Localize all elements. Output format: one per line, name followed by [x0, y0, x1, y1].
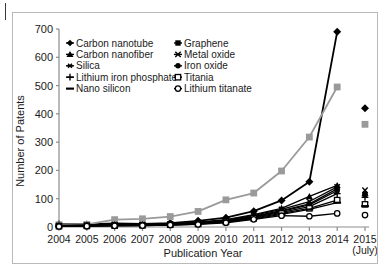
chart-frame: 0100200300400500600700 20042005200620072…	[12, 12, 378, 264]
diamond-icon	[333, 28, 341, 36]
legend-item-graphene[interactable]: Graphene	[174, 38, 229, 49]
marker-open-circle	[56, 224, 61, 229]
x-axis-tick-sublabel: (July)	[352, 244, 377, 256]
marker-filled-circle	[175, 63, 180, 68]
marker-open-circle	[84, 223, 89, 228]
open-circle-icon	[251, 217, 256, 222]
marker-filled-diamond	[333, 28, 341, 36]
marker-filled-square	[306, 134, 313, 141]
marker-filled-diamond	[67, 40, 74, 47]
y-axis-tick-label: 0	[47, 221, 53, 233]
marker-plus	[67, 74, 74, 81]
x-axis-tick-label: 2010	[214, 233, 238, 245]
x-axis-title: Publication Year	[164, 247, 243, 259]
legend-item-carbon-nanotube[interactable]: Carbon nanotube	[66, 38, 154, 49]
y-axis-title: Number of Patents	[14, 95, 26, 187]
open-circle-icon	[175, 86, 180, 91]
y-axis-tick-label: 400	[35, 108, 53, 120]
diamond-icon	[67, 40, 74, 47]
square-icon	[250, 190, 257, 197]
legend-item-lithium-titanate[interactable]: Lithium titanate	[174, 83, 252, 94]
chart-legend: Carbon nanotubeCarbon nanofiberSilicaLit…	[66, 38, 252, 95]
x-axis-tick-label: 2007	[131, 233, 155, 245]
marker-open-circle	[251, 217, 256, 222]
marker-asterisk	[67, 64, 72, 68]
open-circle-icon	[362, 212, 367, 217]
chart-page: 0100200300400500600700 20042005200620072…	[0, 0, 391, 276]
y-axis-tick-label: 100	[35, 193, 53, 205]
square-icon	[223, 196, 230, 203]
y-axis-tick-label: 200	[35, 164, 53, 176]
legend-item-titania[interactable]: Titania	[174, 72, 214, 83]
legend-item-iron-oxide[interactable]: Iron oxide	[174, 60, 228, 71]
x-axis-tick-label: 2011	[242, 233, 265, 245]
square-icon	[167, 213, 174, 220]
legend-item-nano-silicon[interactable]: Nano silicon	[66, 83, 130, 94]
open-circle-icon	[334, 211, 339, 216]
marker-open-circle	[279, 213, 284, 218]
legend-label: Titania	[184, 72, 214, 83]
y-axis-tick-label: 300	[35, 136, 53, 148]
marker-filled-square	[195, 208, 202, 215]
series-line	[59, 87, 337, 225]
square-icon	[195, 208, 202, 215]
x-axis-tick-label: 2009	[186, 233, 210, 245]
legend-label: Graphene	[184, 38, 229, 49]
page-edge-mark	[5, 3, 6, 20]
x-axis-tick-label: 2008	[159, 233, 183, 245]
marker-open-circle	[223, 220, 228, 225]
x-axis-tick-label: 2014	[326, 233, 350, 245]
marker-open-circle	[334, 211, 339, 216]
x-axis-tick-label: 2006	[103, 233, 127, 245]
y-axis-tick-label: 700	[35, 23, 53, 35]
legend-item-carbon-nanofiber[interactable]: Carbon nanofiber	[66, 49, 154, 60]
marker-open-circle	[307, 214, 312, 219]
y-axis-tick-label: 500	[35, 80, 53, 92]
marker-open-circle	[168, 222, 173, 227]
marker-filled-square	[334, 84, 341, 91]
marker-open-circle	[112, 223, 117, 228]
square-icon	[278, 168, 285, 175]
y-axis-tick-label: 600	[35, 51, 53, 63]
legend-label: Metal oxide	[184, 49, 236, 60]
x-axis-tick-label: 2013	[298, 233, 322, 245]
legend-label: Lithium titanate	[184, 83, 252, 94]
marker-open-circle	[362, 212, 367, 217]
marker-filled-square	[167, 213, 174, 220]
open-circle-icon	[223, 220, 228, 225]
square-icon	[362, 121, 369, 128]
marker-filled-square	[250, 190, 257, 197]
legend-label: Carbon nanotube	[76, 38, 154, 49]
open-circle-icon	[195, 222, 200, 227]
circle-icon	[175, 63, 180, 68]
y-axis: 0100200300400500600700	[35, 23, 59, 233]
marker-open-square	[175, 75, 180, 80]
marker-filled-square	[175, 40, 180, 45]
open-circle-icon	[84, 223, 89, 228]
legend-item-lithium-iron-phosphate[interactable]: Lithium iron phosphate	[66, 72, 178, 83]
marker-filled-diamond	[361, 104, 369, 112]
marker-filled-square	[278, 168, 285, 175]
legend-label: Iron oxide	[184, 60, 228, 71]
x-axis-tick-label: 2005	[75, 233, 99, 245]
legend-item-metal-oxide[interactable]: Metal oxide	[174, 49, 236, 60]
legend-label: Nano silicon	[76, 83, 130, 94]
legend-label: Lithium iron phosphate	[76, 72, 178, 83]
square-icon	[334, 84, 341, 91]
open-circle-icon	[140, 223, 145, 228]
legend-item-silica[interactable]: Silica	[66, 60, 100, 71]
marker-open-circle	[140, 223, 145, 228]
legend-label: Carbon nanofiber	[76, 49, 154, 60]
open-circle-icon	[307, 214, 312, 219]
marker-open-circle	[195, 222, 200, 227]
square-icon	[175, 40, 180, 45]
marker-filled-square	[223, 196, 230, 203]
diamond-icon	[361, 104, 369, 112]
open-circle-icon	[56, 224, 61, 229]
open-circle-icon	[112, 223, 117, 228]
patents-by-publication-year-chart: 0100200300400500600700 20042005200620072…	[13, 13, 377, 263]
open-square-icon	[175, 75, 180, 80]
open-circle-icon	[168, 222, 173, 227]
legend-label: Silica	[76, 60, 100, 71]
x-axis-tick-label: 2012	[270, 233, 294, 245]
